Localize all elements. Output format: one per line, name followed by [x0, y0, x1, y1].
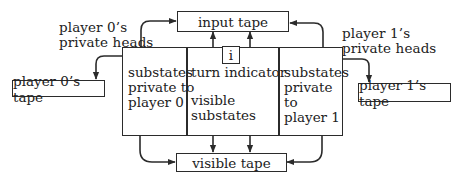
turn-indicator-cell: i	[222, 46, 240, 64]
player1-tape-box: player 1’s tape	[358, 83, 451, 102]
divider-right	[278, 48, 280, 135]
visible-substates-text: visible substates	[191, 93, 256, 123]
turn-indicator-cell-label: i	[229, 47, 233, 63]
player1-substates-text: substates private to player 1	[284, 65, 349, 125]
player0-substates-text: substates private to player 0	[128, 65, 194, 110]
visible-tape-box: visible tape	[176, 153, 287, 172]
player1-tape-label: player 1’s tape	[359, 77, 450, 109]
player0-tape-box: player 0’s tape	[12, 80, 105, 97]
turn-indicator-text: turn indicator	[191, 65, 286, 80]
machine-diagram: input tape player 0’s private heads play…	[0, 0, 467, 184]
input-tape-box: input tape	[177, 11, 289, 32]
visible-tape-label: visible tape	[192, 155, 271, 171]
player0-heads-label: player 0’s private heads	[59, 20, 153, 50]
input-tape-label: input tape	[198, 14, 268, 30]
player0-tape-label: player 0’s tape	[13, 73, 104, 105]
player1-heads-label: player 1’s private heads	[342, 26, 436, 56]
